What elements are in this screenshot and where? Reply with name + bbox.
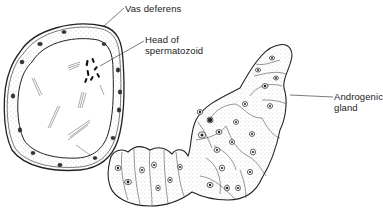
leader-lines [100, 8, 333, 97]
label-androgenic-gland-line1: Androgenic [334, 91, 383, 102]
androgenic-gland [108, 44, 292, 206]
label-vas-deferens: Vas deferens [125, 3, 181, 14]
illustration [0, 0, 383, 221]
label-androgenic-gland-line2: gland [334, 102, 358, 113]
label-head-of-spermatozoid-line1: Head of [145, 34, 179, 45]
vas-deferens [4, 24, 124, 170]
diagram-canvas: ........ Vas deferens Head of spermatozo… [0, 0, 383, 221]
cut-off-caption: ........ [355, 0, 375, 4]
label-head-of-spermatozoid-line2: spermatozoid [145, 45, 203, 56]
